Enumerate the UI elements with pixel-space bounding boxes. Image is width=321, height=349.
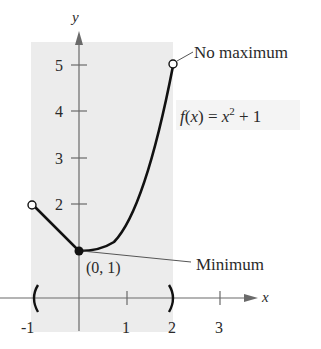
minimum-point-label: (0, 1) [86,259,121,277]
minimum-point [75,247,84,256]
x-tick-label-neg1: -1 [21,319,34,336]
y-axis-arrow-icon [75,31,83,45]
y-axis-label: y [70,9,79,25]
x-axis-label: x [261,289,269,305]
shaded-domain-region [31,42,173,332]
y-tick-label-2: 2 [55,196,63,213]
y-tick-label-4: 4 [55,103,63,120]
chart: x y 5 4 3 2 -1 1 2 3 No maximum Minimum … [0,0,321,349]
no-maximum-label: No maximum [194,43,288,62]
open-endpoint-left [28,201,36,209]
x-axis-arrow-icon [244,294,258,302]
minimum-label: Minimum [196,255,264,274]
open-endpoint-right [169,60,177,68]
x-tick-label-2: 2 [168,319,176,336]
function-label: f(x) = x2 + 1 [180,105,261,126]
x-tick-label-1: 1 [122,319,130,336]
y-tick-label-5: 5 [55,57,63,74]
no-maximum-leader [177,52,193,61]
y-tick-label-3: 3 [55,150,63,167]
x-tick-label-3: 3 [215,319,223,336]
